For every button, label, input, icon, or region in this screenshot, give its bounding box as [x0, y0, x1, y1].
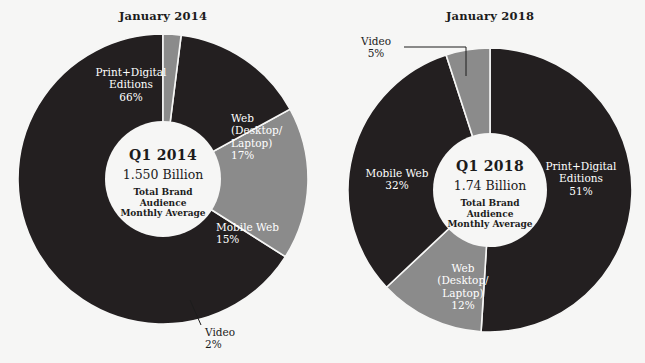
chart-title-right: January 2018: [390, 9, 590, 23]
donut-center-left: Q1 2014 1.550 Billion Total Brand Audien…: [103, 147, 223, 219]
center-quarter-left: Q1 2014: [103, 147, 223, 163]
chart-title-left: January 2014: [63, 9, 263, 23]
center-subtitle-right: Total Brand Audience Monthly Average: [430, 198, 550, 230]
figure-root: January 2014 January 2018 Print+Digital …: [0, 0, 645, 363]
center-value-left: 1.550 Billion: [103, 167, 223, 182]
donut-center-right: Q1 2018 1.74 Billion Total Brand Audienc…: [430, 158, 550, 230]
center-value-right: 1.74 Billion: [430, 178, 550, 193]
center-subtitle-left: Total Brand Audience Monthly Average: [103, 187, 223, 219]
center-quarter-right: Q1 2018: [430, 158, 550, 174]
